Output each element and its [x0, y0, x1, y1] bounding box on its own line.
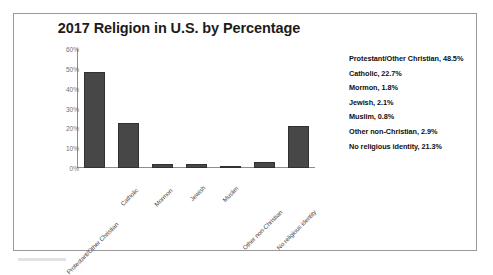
bar — [186, 164, 207, 168]
y-tick-label: 50% — [45, 65, 79, 72]
legend-item: Protestant/Other Christian, 48.5% — [349, 52, 489, 67]
chart-frame: 2017 Religion in U.S. by Percentage 0%10… — [13, 13, 477, 251]
y-tick-label: 20% — [45, 125, 79, 132]
legend: Protestant/Other Christian, 48.5%Catholi… — [349, 52, 489, 154]
y-tick-label: 60% — [45, 46, 79, 53]
legend-item: Muslim, 0.8% — [349, 110, 489, 125]
legend-item: No religious identity, 21.3% — [349, 140, 489, 155]
y-tick-label: 0% — [45, 165, 79, 172]
y-tick-label: 30% — [45, 105, 79, 112]
legend-item: Mormon, 1.8% — [349, 81, 489, 96]
bar — [84, 72, 105, 168]
legend-item: Catholic, 22.7% — [349, 67, 489, 82]
legend-item: Jewish, 2.1% — [349, 96, 489, 111]
bar — [288, 126, 309, 168]
y-tick-label: 40% — [45, 85, 79, 92]
chart-title: 2017 Religion in U.S. by Percentage — [14, 20, 344, 36]
bar — [254, 162, 275, 168]
legend-item: Other non-Christian, 2.9% — [349, 125, 489, 140]
y-tick-label: 10% — [45, 145, 79, 152]
x-tick-label: Protestant/Other Christian — [65, 221, 120, 275]
bar — [152, 164, 173, 168]
x-tick-label: Catholic — [119, 187, 139, 207]
x-tick-label: Jewish — [188, 184, 206, 202]
bar — [220, 166, 241, 168]
x-tick-label: Mormon — [152, 187, 173, 208]
plot-area: 0%10%20%30%40%50%60% Protestant/Other Ch… — [63, 47, 315, 172]
bar — [118, 123, 139, 168]
scan-artifact — [18, 258, 66, 261]
bar-series — [78, 47, 315, 168]
x-tick-label: Muslim — [221, 185, 240, 204]
